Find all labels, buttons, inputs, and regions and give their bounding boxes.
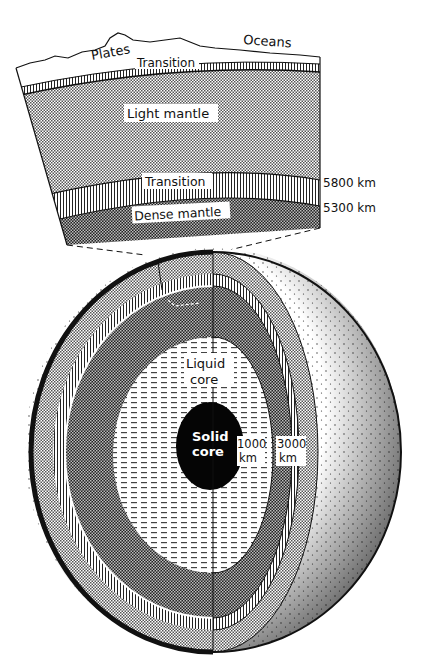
radius-1000-unit: km: [239, 451, 257, 465]
solid-core-label-line2: core: [192, 444, 224, 459]
oceans-label: Oceans: [243, 32, 293, 50]
solid-core-label-line1: Solid: [192, 429, 229, 444]
depth-5300-label: 5300 km: [323, 201, 376, 215]
globe: Liquid core Solid core 1000 km 3000 km: [25, 248, 401, 652]
upper-transition-label: Transition: [136, 56, 195, 70]
liquid-core-label-line2: core: [190, 372, 218, 387]
liquid-core-label-line1: Liquid: [186, 356, 225, 371]
plates-label: Plates: [90, 41, 132, 63]
cross-section: Plates Oceans Transition Light mantle Tr…: [0, 32, 376, 260]
radius-1000-value: 1000: [237, 437, 266, 451]
depth-5800-label: 5800 km: [323, 176, 376, 190]
projection-line-left: [67, 245, 145, 255]
radius-3000-value: 3000: [277, 437, 306, 451]
earth-structure-diagram: Plates Oceans Transition Light mantle Tr…: [0, 0, 422, 667]
light-mantle-label: Light mantle: [127, 106, 209, 121]
radius-3000-unit: km: [279, 451, 297, 465]
lower-transition-label: Transition: [144, 174, 205, 189]
